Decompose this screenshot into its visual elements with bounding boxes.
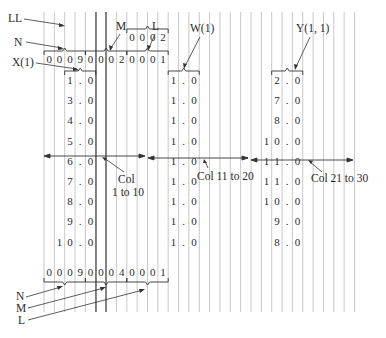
n-label: N	[14, 36, 64, 50]
card-digit: 0	[88, 175, 94, 187]
svg-text:N: N	[16, 290, 25, 302]
col-11-20-label: Col 11 to 20	[197, 159, 254, 182]
bottom-l-label: L	[18, 289, 145, 326]
card-digit: 0	[295, 74, 301, 86]
card-digit: 0	[98, 53, 104, 65]
card-digit: 8	[67, 195, 73, 207]
card-digit: 0	[129, 31, 135, 43]
card-digit: 1	[171, 215, 177, 227]
col-21-30-label: Col 21 to 30	[308, 160, 368, 184]
card-digit: 0	[140, 53, 146, 65]
card-digit: 0	[109, 53, 115, 65]
card-digit: 5	[67, 135, 73, 147]
card-digit: .	[79, 94, 82, 106]
card-digit: 0	[191, 74, 197, 86]
card-digit: 0	[88, 266, 94, 278]
svg-text:LL: LL	[8, 12, 22, 24]
card-digit: 0	[88, 195, 94, 207]
card-digit: 0	[109, 266, 115, 278]
card-digit: .	[79, 215, 82, 227]
card-digit: 2	[160, 31, 166, 43]
card-digit: 1	[171, 135, 177, 147]
card-digit: .	[286, 236, 289, 248]
card-digit: 0	[129, 53, 135, 65]
card-digit: 9	[274, 215, 280, 227]
card-digit: .	[79, 114, 82, 126]
card-digit: 1	[274, 155, 280, 167]
card-digit: .	[286, 175, 289, 187]
card-digit: 0	[57, 53, 63, 65]
card-digit: .	[182, 215, 185, 227]
svg-text:Col 21 to 30: Col 21 to 30	[311, 172, 368, 184]
card-digit: 0	[140, 31, 146, 43]
card-digit: 0	[295, 236, 301, 248]
card-digit: .	[182, 155, 185, 167]
card-digit: .	[182, 135, 185, 147]
card-digit: 0	[191, 155, 197, 167]
card-digit: 0	[88, 94, 94, 106]
card-digit: 1	[160, 53, 166, 65]
card-digit: 9	[77, 266, 83, 278]
card-digit: 8	[274, 236, 280, 248]
card-digit: 0	[67, 266, 73, 278]
card-digit: 1	[160, 266, 166, 278]
card-digit: 7	[274, 94, 280, 106]
card-digit: 0	[295, 215, 301, 227]
card-digit: 1	[171, 94, 177, 106]
card-digit: 9	[77, 53, 83, 65]
card-digit: 0	[295, 175, 301, 187]
bottom-n-label: N	[16, 286, 63, 302]
card-digit: .	[182, 175, 185, 187]
card-digit: 0	[295, 135, 301, 147]
card-digit: 0	[191, 236, 197, 248]
card-digit: 0	[274, 195, 280, 207]
card-digit: 0	[46, 266, 52, 278]
card-digit: 0	[191, 195, 197, 207]
card-digit: 1	[67, 74, 73, 86]
card-digit: 0	[295, 94, 301, 106]
diagram-canvas: Col 1 to 10 Col 11 to 20 Col 21 to 30 LL…	[0, 0, 386, 338]
card-digit: 1	[171, 114, 177, 126]
card-digit: 8	[274, 114, 280, 126]
card-digit: 0	[88, 135, 94, 147]
card-digit: 0	[295, 114, 301, 126]
card-digit: 0	[150, 31, 156, 43]
svg-text:Y(1, 1): Y(1, 1)	[296, 22, 329, 35]
card-digit: 2	[119, 53, 125, 65]
card-digit: 1	[171, 175, 177, 187]
card-digit: 0	[140, 266, 146, 278]
card-digit: 0	[191, 114, 197, 126]
card-digit: 0	[191, 175, 197, 187]
card-digit: .	[182, 74, 185, 86]
card-digit: 9	[67, 215, 73, 227]
card-digit: 0	[67, 53, 73, 65]
svg-text:L: L	[18, 314, 25, 326]
card-digit: 1	[264, 175, 270, 187]
card-digit: .	[286, 195, 289, 207]
card-digit: 1	[274, 175, 280, 187]
svg-text:Col: Col	[118, 173, 135, 185]
svg-text:X(1): X(1)	[12, 56, 34, 69]
card-digit: 0	[88, 155, 94, 167]
card-digit: .	[79, 195, 82, 207]
card-digit: 2	[274, 74, 280, 86]
card-values: 00020009000200011.03.04.05.06.07.08.09.0…	[44, 26, 303, 285]
card-digit: 1	[264, 195, 270, 207]
card-digit: 1	[171, 236, 177, 248]
card-digit: 0	[129, 266, 135, 278]
card-digit: 1	[264, 135, 270, 147]
card-digit: .	[79, 74, 82, 86]
card-layout-diagram: Col 1 to 10 Col 11 to 20 Col 21 to 30 LL…	[0, 0, 386, 338]
card-digit: 0	[295, 155, 301, 167]
card-digit: .	[182, 195, 185, 207]
card-digit: .	[182, 114, 185, 126]
card-digit: 3	[67, 94, 73, 106]
card-digit: 0	[88, 53, 94, 65]
svg-text:M: M	[16, 302, 26, 314]
card-digit: 0	[88, 236, 94, 248]
m-label: M	[109, 20, 126, 51]
card-digit: 1	[171, 155, 177, 167]
y-label: Y(1, 1)	[294, 22, 329, 70]
card-digit: 0	[88, 74, 94, 86]
card-digit: 0	[88, 114, 94, 126]
